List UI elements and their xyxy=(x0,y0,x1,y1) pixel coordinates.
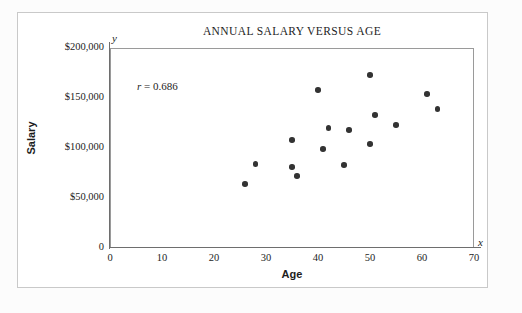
x-tick-label: 30 xyxy=(251,252,281,263)
data-point xyxy=(289,137,295,143)
data-point xyxy=(424,91,430,97)
x-tick-label: 20 xyxy=(199,252,229,263)
data-point xyxy=(326,125,332,131)
data-point xyxy=(367,72,373,78)
data-points-layer xyxy=(0,0,522,313)
x-tick-label: 10 xyxy=(147,252,177,263)
data-point xyxy=(315,87,321,93)
data-point xyxy=(341,162,347,168)
data-point xyxy=(320,146,326,152)
data-point xyxy=(294,173,300,179)
data-point xyxy=(393,122,399,128)
x-tick-label: 60 xyxy=(407,252,437,263)
data-point xyxy=(372,112,378,118)
x-tick-label: 50 xyxy=(355,252,385,263)
data-point xyxy=(253,161,259,167)
data-point xyxy=(367,141,373,147)
figure-page: ANNUAL SALARY VERSUS AGE y x 0$50,000$10… xyxy=(0,0,522,313)
x-tick-label: 70 xyxy=(459,252,489,263)
data-point xyxy=(435,106,441,112)
data-point xyxy=(289,164,295,170)
data-point xyxy=(346,127,352,133)
x-tick-label: 40 xyxy=(303,252,333,263)
scatter-plot-figure: ANNUAL SALARY VERSUS AGE y x 0$50,000$10… xyxy=(0,0,522,313)
x-tick-label: 0 xyxy=(95,252,125,263)
data-point xyxy=(242,181,248,187)
